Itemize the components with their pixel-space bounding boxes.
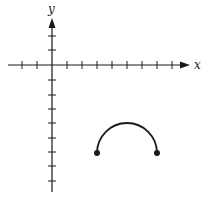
graph: x y (0, 0, 203, 199)
y-axis-arrow-icon (49, 18, 56, 28)
semicircle-curve (97, 123, 157, 153)
x-axis-label: x (194, 58, 201, 72)
y-axis-label: y (47, 2, 55, 16)
right-endpoint-dot (154, 150, 160, 156)
left-endpoint-dot (94, 150, 100, 156)
x-axis-arrow-icon (180, 62, 190, 69)
